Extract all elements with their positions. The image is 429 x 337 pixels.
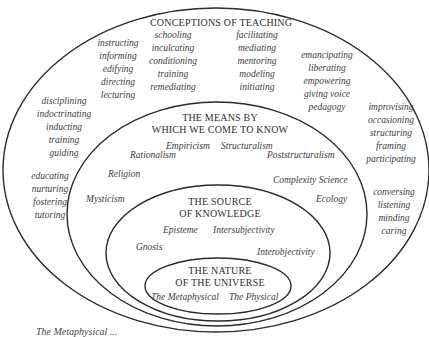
term: pedagogy xyxy=(292,101,362,114)
term-interobjectivity: Interobjectivity xyxy=(257,246,315,260)
term-ecology: Ecology xyxy=(316,193,347,207)
term-intersubjectivity: Intersubjectivity xyxy=(213,224,275,238)
term: conditioning xyxy=(138,55,208,68)
term: modeling xyxy=(222,68,292,81)
term: mediating xyxy=(222,42,292,55)
means-title-line1: THE MEANS BY xyxy=(150,112,290,124)
term: occasioning xyxy=(356,114,426,127)
term: emancipating xyxy=(292,49,362,62)
term: schooling xyxy=(138,29,208,42)
term: initiating xyxy=(222,81,292,94)
term: liberating xyxy=(292,62,362,75)
nature-title-line1: THE NATURE xyxy=(170,265,270,277)
term: educating xyxy=(20,170,80,183)
term-complexity-science: Complexity Science xyxy=(273,174,348,188)
term: giving voice xyxy=(292,88,362,101)
term: participating xyxy=(356,153,426,166)
term-group-conversing: conversing listening minding caring xyxy=(364,186,424,238)
source-title-line1: THE SOURCE xyxy=(170,196,270,208)
term-structuralism: Structuralism xyxy=(221,140,273,154)
term-poststructuralism: Poststructuralism xyxy=(267,149,335,163)
term-group-educating: educating nurturing fostering tutoring xyxy=(20,170,80,222)
figure-caption: The Metaphysical ... xyxy=(36,326,117,337)
term-mysticism: Mysticism xyxy=(86,193,125,207)
term-group-improvising: improvising occasioning structuring fram… xyxy=(356,101,426,166)
term-group-emancipating: emancipating liberating empowering givin… xyxy=(292,49,362,114)
term-rationalism: Rationalism xyxy=(130,149,176,163)
term-the-metaphysical: The Metaphysical xyxy=(151,291,219,305)
term: empowering xyxy=(292,75,362,88)
conceptions-title: CONCEPTIONS OF TEACHING xyxy=(150,17,290,29)
term: listening xyxy=(364,199,424,212)
term: inculcating xyxy=(138,42,208,55)
source-title-line2: OF KNOWLEDGE xyxy=(165,208,275,220)
term-the-physical: The Physical xyxy=(229,291,278,305)
term: training xyxy=(29,134,99,147)
means-title-line2: WHICH WE COME TO KNOW xyxy=(140,124,300,136)
term: training xyxy=(138,68,208,81)
term: nurturing xyxy=(20,183,80,196)
term: conversing xyxy=(364,186,424,199)
term: tutoring xyxy=(20,209,80,222)
term: inducting xyxy=(29,121,99,134)
term: framing xyxy=(356,140,426,153)
term: improvising xyxy=(356,101,426,114)
term: fostering xyxy=(20,196,80,209)
term-religion: Religion xyxy=(108,168,140,182)
nature-title-line2: OF THE UNIVERSE xyxy=(160,277,280,289)
term: caring xyxy=(364,225,424,238)
term: guiding xyxy=(29,147,99,160)
term-group-facilitating: facilitating mediating mentoring modelin… xyxy=(222,29,292,94)
term: indoctrinating xyxy=(29,108,99,121)
term: disciplining xyxy=(29,95,99,108)
term: mentoring xyxy=(222,55,292,68)
term: structuring xyxy=(356,127,426,140)
term-group-schooling: schooling inculcating conditioning train… xyxy=(138,29,208,94)
term-group-disciplining: disciplining indoctrinating inducting tr… xyxy=(29,95,99,160)
term-episteme: Episteme xyxy=(163,224,198,238)
term: facilitating xyxy=(222,29,292,42)
term: minding xyxy=(364,212,424,225)
term: remediating xyxy=(138,81,208,94)
term-gnosis: Gnosis xyxy=(136,241,162,255)
